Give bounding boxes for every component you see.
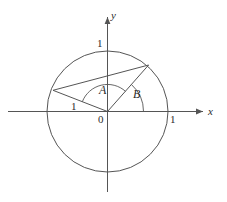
radius-length-label-1: 1 [71, 101, 77, 112]
origin-label: 0 [98, 114, 104, 125]
unit-circle-figure: y x 1 1 1 0 A B [0, 0, 227, 202]
angle-b-label: B [133, 88, 140, 100]
x-axis-tick-label-1: 1 [170, 114, 176, 125]
angle-a-label: A [99, 84, 106, 96]
figure-canvas [0, 0, 227, 202]
y-axis-tick-label-1: 1 [97, 38, 103, 49]
y-axis-arrowhead [105, 17, 111, 24]
x-axis-arrowhead [196, 109, 203, 115]
radius-segment-b [108, 65, 149, 112]
y-axis-label: y [111, 10, 116, 21]
x-axis-label: x [208, 106, 213, 117]
